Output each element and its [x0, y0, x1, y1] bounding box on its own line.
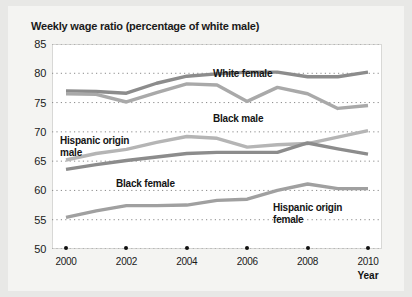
- x-axis: 200020022004200620082010Year: [52, 249, 392, 289]
- chart-title: Weekly wage ratio (percentage of white m…: [31, 20, 259, 32]
- series-label: Hispanic origin female: [273, 202, 342, 225]
- y-axis-tick-label: 65: [20, 155, 46, 167]
- y-axis-tick-label: 50: [20, 243, 46, 255]
- x-axis-tick-marker: [245, 246, 249, 250]
- x-axis-tick-marker: [306, 246, 310, 250]
- x-axis-tick-label: 2008: [297, 256, 318, 267]
- series-label: Black female: [116, 178, 175, 190]
- series-line-black-male: [66, 84, 368, 109]
- y-axis-tick-label: 70: [20, 126, 46, 138]
- series-label: White female: [213, 68, 272, 80]
- series-label: Black male: [213, 113, 263, 125]
- y-axis-tick-label: 60: [20, 184, 46, 196]
- x-axis-tick-label: 2006: [237, 256, 258, 267]
- x-axis-tick-marker: [64, 246, 68, 250]
- x-axis-tick-label: 2000: [55, 256, 76, 267]
- x-axis-tick-label: 2004: [176, 256, 197, 267]
- x-axis-title: Year: [357, 270, 378, 281]
- x-axis-tick-label: 2010: [357, 256, 378, 267]
- y-axis-tick-label: 75: [20, 97, 46, 109]
- y-axis-tick-label: 55: [20, 214, 46, 226]
- x-axis-tick-label: 2002: [116, 256, 137, 267]
- y-axis-tick-label: 80: [20, 67, 46, 79]
- x-axis-tick-marker: [366, 246, 370, 250]
- y-axis: 8580757065605550: [14, 44, 46, 249]
- series-label: Hispanic origin male: [60, 135, 129, 158]
- x-axis-tick-marker: [185, 246, 189, 250]
- x-axis-tick-marker: [124, 246, 128, 250]
- y-axis-tick-label: 85: [20, 38, 46, 50]
- figure-panel: Weekly wage ratio (percentage of white m…: [8, 6, 404, 291]
